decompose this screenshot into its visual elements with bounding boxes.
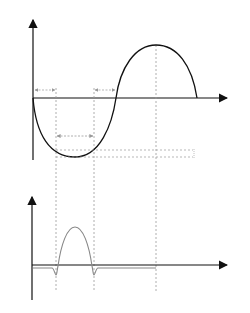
force-curve xyxy=(33,227,156,275)
top-plot xyxy=(33,20,227,293)
displacement-force-diagram xyxy=(0,0,250,313)
bottom-plot xyxy=(32,197,227,300)
displacement-curve xyxy=(33,45,197,157)
